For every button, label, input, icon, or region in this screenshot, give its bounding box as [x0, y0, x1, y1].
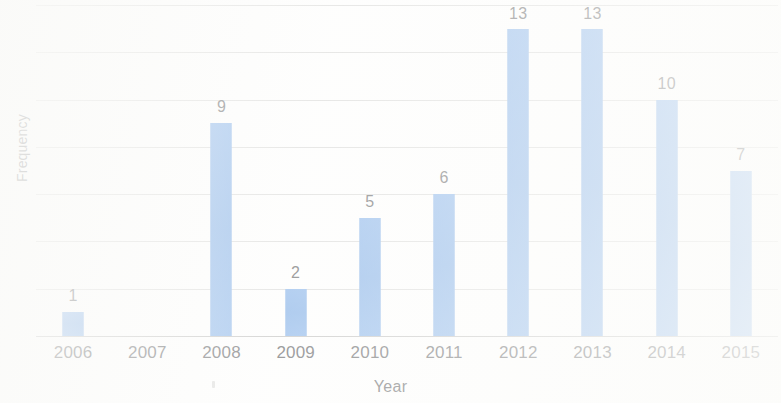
- x-tick-label: 2007: [128, 343, 167, 363]
- bar-group: 9: [184, 5, 258, 336]
- x-tick-label: 2006: [54, 343, 93, 363]
- bar-value-label: 13: [583, 5, 601, 23]
- bar-group: [110, 5, 184, 336]
- x-tick-label: 2015: [722, 343, 761, 363]
- bar-group: 6: [407, 5, 481, 336]
- bar-chart-screenshot: 192561313107 200620072008200920102011201…: [0, 0, 781, 403]
- x-tick-label: 2012: [499, 343, 538, 363]
- bar-group: 13: [481, 5, 555, 336]
- bar-group: 10: [630, 5, 704, 336]
- x-tick-label: 2013: [573, 343, 612, 363]
- x-tick-label: 2009: [276, 343, 315, 363]
- y-axis-title: Frequency: [14, 93, 30, 203]
- bar: [656, 100, 677, 336]
- x-tick-label: 2014: [647, 343, 686, 363]
- bars-layer: 192561313107: [36, 5, 778, 336]
- bar-value-label: 7: [736, 146, 745, 164]
- bar: [359, 218, 380, 336]
- scan-artifact: [212, 381, 215, 388]
- x-tick-label: 2008: [202, 343, 241, 363]
- bar: [434, 194, 455, 336]
- x-tick-label: 2010: [351, 343, 390, 363]
- bar: [211, 123, 232, 336]
- bar: [285, 289, 306, 336]
- bar-value-label: 5: [365, 193, 374, 211]
- x-axis-title: Year: [0, 378, 781, 396]
- plot-area: 192561313107: [36, 5, 778, 336]
- bar-group: 1: [36, 5, 110, 336]
- bar-value-label: 1: [68, 287, 77, 305]
- bar-group: 5: [333, 5, 407, 336]
- bar-value-label: 2: [291, 264, 300, 282]
- bar-value-label: 6: [439, 169, 448, 187]
- x-axis-tick-labels: 2006200720082009201020112012201320142015: [36, 343, 778, 369]
- gridline: [36, 336, 778, 337]
- bar: [63, 312, 84, 336]
- bar: [508, 29, 529, 336]
- x-tick-label: 2011: [425, 343, 462, 363]
- bar: [582, 29, 603, 336]
- bar-group: 2: [259, 5, 333, 336]
- bar-value-label: 10: [657, 75, 675, 93]
- bar: [730, 171, 751, 337]
- bar-group: 13: [555, 5, 629, 336]
- bar-value-label: 9: [217, 98, 226, 116]
- bar-value-label: 13: [509, 5, 527, 23]
- bar-group: 7: [704, 5, 778, 336]
